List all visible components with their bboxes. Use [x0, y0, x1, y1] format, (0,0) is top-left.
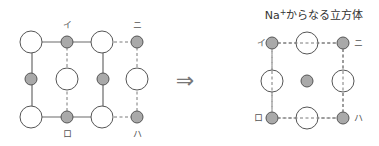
small-ion-circle-ro — [266, 112, 278, 124]
label-ro: ロ — [63, 129, 72, 139]
large-ion-circle — [91, 31, 113, 53]
large-ion-circle — [91, 106, 113, 128]
small-ion-circle-ni — [337, 37, 349, 49]
label-ro: ロ — [254, 113, 263, 123]
small-ion-circle-i — [61, 36, 73, 48]
label-ha: ハ — [354, 113, 363, 123]
small-ion-circle — [25, 73, 37, 85]
small-ion-circle-ro — [61, 111, 73, 123]
label-ni: ニ — [133, 20, 142, 30]
title-superscript: + — [280, 8, 287, 17]
small-ion-circle-center — [301, 75, 313, 87]
implies-arrow-icon: ⇒ — [176, 68, 194, 93]
label-i: イ — [257, 38, 266, 48]
large-ion-circle — [20, 106, 42, 128]
right-figure-title: Na+からなる立方体 — [265, 8, 364, 22]
title-rest: からなる立方体 — [286, 8, 363, 22]
right-figure: Na+からなる立方体 イ ニ ロ ハ — [254, 8, 364, 129]
label-ni: ニ — [354, 38, 363, 48]
label-i: イ — [63, 20, 72, 30]
small-ion-circle — [97, 73, 109, 85]
title-na: Na — [265, 9, 280, 22]
small-ion-circle-i — [266, 37, 278, 49]
large-ion-circle — [20, 31, 42, 53]
small-ion-circle-ha — [131, 111, 143, 123]
large-ion-circle — [126, 68, 148, 90]
small-ion-circle-ha — [337, 112, 349, 124]
nacl-unit-cell-diagram: イ ニ ロ ハ ⇒ Na+からなる立方体 イ ニ ロ ハ — [0, 0, 379, 146]
small-ion-circle-ni — [131, 36, 143, 48]
left-figure: イ ニ ロ ハ — [20, 20, 148, 139]
large-ion-circle — [56, 68, 78, 90]
label-ha: ハ — [133, 129, 142, 139]
